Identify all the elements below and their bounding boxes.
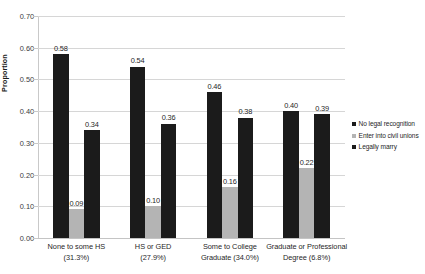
x-axis-category-labels: None to some HS(31.3%)HS or GED(27.9%)So… xyxy=(38,242,345,272)
bar[interactable] xyxy=(283,111,299,238)
y-axis-tick-label: 0.60 xyxy=(0,44,34,53)
x-axis-category-label: Graduate or ProfessionalDegree (6.8%) xyxy=(260,242,353,263)
bar[interactable] xyxy=(238,118,254,239)
bar[interactable] xyxy=(145,206,161,238)
bar[interactable] xyxy=(314,114,330,238)
bar-value-label: 0.54 xyxy=(125,56,151,65)
y-axis-tick-label: 0.70 xyxy=(0,12,34,21)
y-axis-title: Proportion xyxy=(0,28,9,118)
y-axis-tick-label: 0.00 xyxy=(0,234,34,243)
y-axis-tick-label: 0.20 xyxy=(0,171,34,180)
legend-swatch-icon xyxy=(352,122,356,126)
y-axis-tick-label: 0.50 xyxy=(0,75,34,84)
bar[interactable] xyxy=(69,209,85,238)
bar-value-label: 0.34 xyxy=(79,120,105,129)
bar[interactable] xyxy=(222,187,238,238)
bar-group: 0.400.220.39 xyxy=(268,16,345,238)
bar-value-label: 0.46 xyxy=(202,82,228,91)
bar[interactable] xyxy=(299,168,315,238)
bar-group: 0.540.100.36 xyxy=(115,16,192,238)
y-axis-tick-label: 0.40 xyxy=(0,107,34,116)
bar[interactable] xyxy=(130,67,146,238)
y-axis-tick-mark xyxy=(33,238,38,239)
bar[interactable] xyxy=(207,92,223,238)
bar[interactable] xyxy=(161,124,177,238)
bar-chart: Proportion 0.000.100.200.300.400.500.600… xyxy=(0,0,425,274)
x-axis-label-line: Graduate or Professional xyxy=(260,242,353,253)
bar[interactable] xyxy=(53,54,69,238)
bar[interactable] xyxy=(84,130,100,238)
legend-item[interactable]: Enter into civil unions xyxy=(352,132,425,140)
y-axis-tick-label: 0.10 xyxy=(0,202,34,211)
legend-item-label: No legal recognition xyxy=(359,120,415,128)
x-axis-label-line: Degree (6.8%) xyxy=(260,253,353,264)
legend-item-label: Enter into civil unions xyxy=(359,132,419,140)
bars-layer: 0.580.090.340.540.100.360.460.160.380.40… xyxy=(38,16,345,238)
legend-swatch-icon xyxy=(352,145,356,149)
legend-swatch-icon xyxy=(352,134,356,138)
bar-value-label: 0.58 xyxy=(48,44,74,53)
bar-group: 0.580.090.34 xyxy=(38,16,115,238)
bar-value-label: 0.39 xyxy=(309,104,335,113)
y-axis-tick-label: 0.30 xyxy=(0,139,34,148)
gridline xyxy=(38,238,345,239)
legend-item-label: Legally marry xyxy=(359,143,397,151)
legend-item[interactable]: Legally marry xyxy=(352,143,425,151)
bar-group: 0.460.160.38 xyxy=(192,16,269,238)
legend-item[interactable]: No legal recognition xyxy=(352,120,425,128)
bar-value-label: 0.36 xyxy=(156,113,182,122)
bar-value-label: 0.38 xyxy=(233,107,259,116)
bar-value-label: 0.40 xyxy=(278,101,304,110)
chart-legend: No legal recognitionEnter into civil uni… xyxy=(352,120,425,155)
